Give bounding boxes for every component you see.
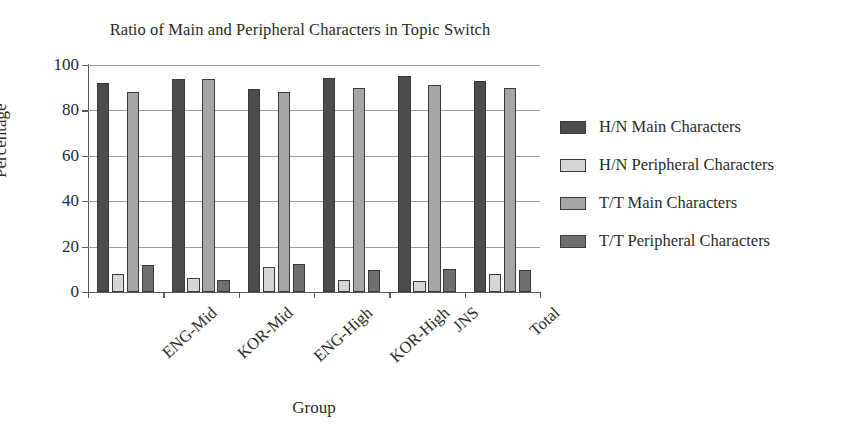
legend-swatch-icon — [560, 121, 586, 134]
x-tick-label: ENG-Mid — [158, 303, 221, 363]
y-tick-mark — [82, 156, 88, 157]
gridline — [88, 156, 540, 157]
bar — [353, 88, 366, 292]
legend-swatch-icon — [560, 197, 586, 210]
legend-label: T/T Main Characters — [599, 193, 737, 213]
bar — [263, 267, 276, 292]
gridline — [88, 247, 540, 248]
x-tick-label: KOR-Mid — [233, 303, 297, 363]
y-tick-label: 20 — [62, 237, 79, 257]
x-tick-mark — [314, 292, 315, 298]
gridline — [88, 201, 540, 202]
bar — [413, 281, 426, 292]
y-tick-mark — [82, 201, 88, 202]
bar — [323, 78, 336, 293]
x-tick-mark — [540, 292, 541, 298]
legend-item[interactable]: H/N Main Characters — [560, 108, 845, 146]
legend-item[interactable]: T/T Main Characters — [560, 184, 845, 222]
bar — [112, 274, 125, 292]
chart-title: Ratio of Main and Peripheral Characters … — [0, 20, 600, 40]
y-tick-mark — [82, 247, 88, 248]
bar — [217, 280, 230, 292]
y-tick-label: 100 — [54, 55, 80, 75]
gridline — [88, 110, 540, 111]
legend-label: T/T Peripheral Characters — [599, 231, 770, 251]
gridline — [88, 65, 540, 66]
x-tick-label: KOR-High — [386, 303, 454, 367]
x-tick-mark — [163, 292, 164, 298]
y-tick-mark — [82, 65, 88, 66]
bar — [504, 88, 517, 292]
bar-group — [172, 65, 230, 292]
bar-group — [474, 65, 532, 292]
x-tick-mark — [88, 292, 89, 298]
x-tick-label: JNS — [449, 303, 483, 336]
bar — [293, 264, 306, 292]
bar — [489, 274, 502, 292]
legend-swatch-icon — [560, 159, 586, 172]
legend-item[interactable]: H/N Peripheral Characters — [560, 146, 845, 184]
y-tick-mark — [82, 110, 88, 111]
plot-area: 020406080100ENG-MidKOR-MidENG-HighKOR-Hi… — [88, 65, 540, 292]
bar-group — [97, 65, 155, 292]
bar — [398, 76, 411, 292]
y-tick-label: 40 — [62, 191, 79, 211]
legend-label: H/N Peripheral Characters — [599, 155, 774, 175]
legend-label: H/N Main Characters — [599, 117, 741, 137]
bar — [202, 79, 215, 292]
bar-group — [248, 65, 306, 292]
x-tick-mark — [465, 292, 466, 298]
bar — [474, 81, 487, 292]
bar — [172, 79, 185, 292]
bar — [338, 280, 351, 292]
bar — [368, 270, 381, 292]
bar — [187, 278, 200, 292]
x-tick-mark — [239, 292, 240, 298]
legend-item[interactable]: T/T Peripheral Characters — [560, 222, 845, 260]
bar — [142, 265, 155, 292]
bar — [97, 83, 110, 292]
bar-group — [323, 65, 381, 292]
bar — [127, 92, 140, 292]
legend-swatch-icon — [560, 235, 586, 248]
x-axis-label: Group — [88, 398, 540, 418]
y-tick-label: 80 — [62, 100, 79, 120]
bar — [428, 85, 441, 292]
chart-figure: Ratio of Main and Peripheral Characters … — [0, 0, 849, 443]
x-tick-mark — [389, 292, 390, 298]
y-axis-label: Percentage — [0, 103, 11, 178]
x-tick-label: ENG-High — [310, 303, 377, 366]
bar-group — [398, 65, 456, 292]
y-tick-label: 0 — [71, 282, 80, 302]
y-tick-label: 60 — [62, 146, 79, 166]
bar — [443, 269, 456, 292]
x-tick-label: Total — [526, 303, 564, 340]
bar — [519, 270, 532, 292]
bar — [278, 92, 291, 292]
chart-legend: H/N Main CharactersH/N Peripheral Charac… — [560, 108, 845, 260]
bar — [248, 89, 261, 292]
